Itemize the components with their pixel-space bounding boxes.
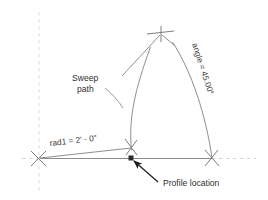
angle-dimension-label: angle = 45.00° — [190, 42, 216, 96]
radius-dimension-label: rad1 = 2' - 0" — [49, 133, 97, 148]
apex-leader-left — [122, 35, 160, 76]
sweep-path-arc — [131, 47, 151, 150]
sweep-path-note-group: Sweep path — [72, 73, 123, 108]
radius-dimension-group: rad1 = 2' - 0" — [40, 133, 131, 158]
apex-leader-lines — [122, 35, 174, 76]
sweep-path-leader-line — [105, 88, 123, 108]
profile-location-arrow — [134, 161, 158, 182]
profile-location-point — [129, 156, 134, 161]
technical-drawing-svg: rad1 = 2' - 0" angle = 45.00° Sweep path… — [0, 0, 268, 200]
sweep-path-label-line2: path — [77, 84, 94, 94]
cad-drawing-canvas: rad1 = 2' - 0" angle = 45.00° Sweep path… — [0, 0, 268, 200]
profile-location-label: Profile location — [163, 178, 220, 188]
angle-dimension-group: angle = 45.00° — [190, 42, 216, 96]
apex-tick — [147, 26, 174, 42]
sweep-path-label-line1: Sweep — [72, 73, 98, 83]
profile-location-group: Profile location — [129, 156, 220, 189]
apex-leader-right — [162, 35, 174, 45]
sweep-path-arc-group — [131, 47, 151, 150]
radius-dimension-line — [40, 148, 131, 158]
